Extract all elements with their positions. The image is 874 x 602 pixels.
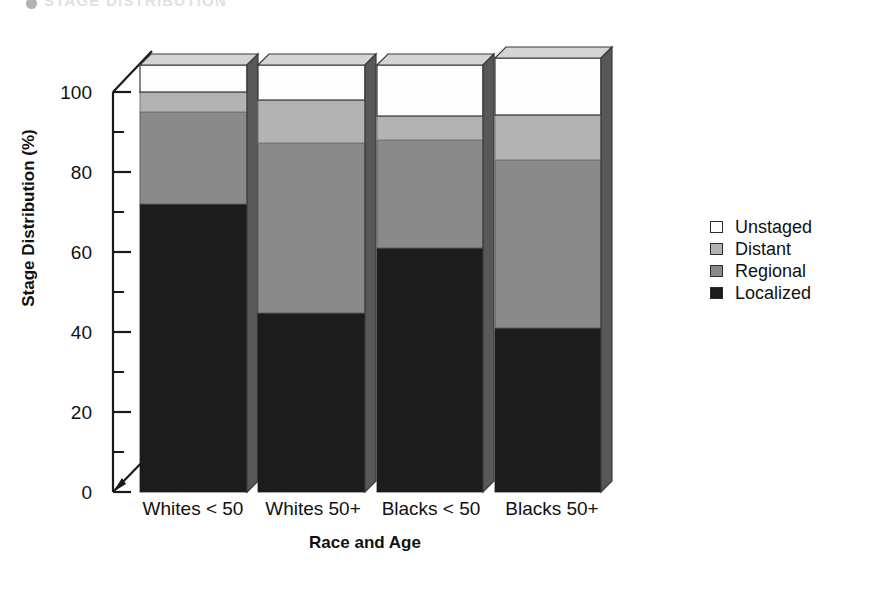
bar-segment-regional <box>377 140 483 248</box>
y-tick-label-40: 40 <box>48 323 92 342</box>
legend-item-unstaged[interactable]: Unstaged <box>710 216 812 238</box>
bar-segment-distant <box>258 100 365 143</box>
legend-label-localized: Localized <box>735 284 811 302</box>
legend-label-unstaged: Unstaged <box>735 218 812 236</box>
bar-cap-side <box>365 54 376 492</box>
bar-group-blacks-50-plus[interactable] <box>495 47 612 492</box>
bar-group-whites-under-50[interactable] <box>140 54 258 492</box>
legend-swatch-localized <box>710 287 723 299</box>
bar-segment-regional <box>140 112 247 204</box>
x-tick-label-whites-under-50: Whites < 50 <box>128 498 258 520</box>
bar-segment-localized <box>377 248 483 492</box>
legend-item-regional[interactable]: Regional <box>710 260 812 282</box>
y-tick-label-0: 0 <box>48 483 92 502</box>
bar-cap-face <box>377 54 494 65</box>
bar-segment-localized <box>140 204 247 492</box>
x-tick-label-whites-50-plus: Whites 50+ <box>248 498 378 520</box>
legend-item-localized[interactable]: Localized <box>710 282 812 304</box>
bar-segment-distant <box>377 116 483 140</box>
bar-segment-regional <box>258 143 365 313</box>
y-axis-minor-ticks <box>113 132 124 452</box>
chart-figure: STAGE DISTRIBUTION <box>0 0 874 602</box>
bar-segment-regional <box>495 160 601 328</box>
legend-swatch-regional <box>710 265 723 277</box>
bar-segment-unstaged <box>377 65 483 116</box>
x-axis-title: Race and Age <box>245 533 485 553</box>
chart-legend: Unstaged Distant Regional Localized <box>710 216 812 304</box>
bar-segment-distant <box>140 92 247 112</box>
bar-segment-unstaged <box>495 58 601 115</box>
bar-group-whites-50-plus[interactable] <box>258 54 376 492</box>
bar-cap-side <box>483 54 494 492</box>
bar-segment-unstaged <box>258 65 365 100</box>
bar-segment-distant <box>495 115 601 160</box>
bar-segment-localized <box>258 313 365 492</box>
x-tick-label-blacks-under-50: Blacks < 50 <box>366 498 496 520</box>
y-tick-label-60: 60 <box>48 243 92 262</box>
legend-item-distant[interactable]: Distant <box>710 238 812 260</box>
bar-cap-face <box>258 54 376 65</box>
y-tick-label-20: 20 <box>48 403 92 422</box>
bar-cap-side <box>247 54 258 492</box>
legend-swatch-distant <box>710 243 723 255</box>
y-axis-title: Stage Distribution (%) <box>19 103 39 333</box>
bar-group-blacks-under-50[interactable] <box>377 54 494 492</box>
y-tick-label-80: 80 <box>48 163 92 182</box>
legend-label-regional: Regional <box>735 262 806 280</box>
bar-cap-face <box>495 47 612 58</box>
bar-cap-side <box>601 47 612 492</box>
x-tick-label-blacks-50-plus: Blacks 50+ <box>487 498 617 520</box>
y-tick-label-100: 100 <box>48 83 92 102</box>
legend-label-distant: Distant <box>735 240 791 258</box>
legend-swatch-unstaged <box>710 221 723 233</box>
bar-segment-unstaged <box>140 65 247 92</box>
bar-segment-localized <box>495 328 601 492</box>
bar-cap-face <box>140 54 258 65</box>
